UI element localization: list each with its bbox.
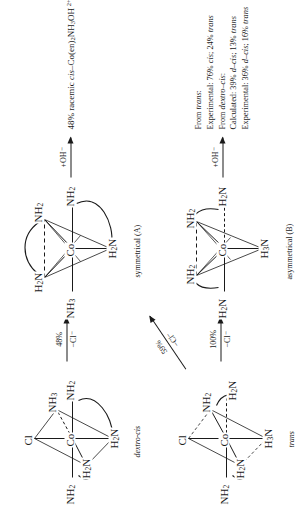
ligand-h2n-left: H2N: [216, 297, 228, 319]
metal-center-co: Co: [216, 242, 227, 257]
ligand-nh2-left: NH2: [64, 483, 76, 505]
ligand-h2n-bottom: H2N: [106, 237, 118, 259]
ligand-nh3-left: NH3: [64, 297, 76, 319]
ligand-h2n-top-left: H2N: [32, 271, 44, 293]
arrow-label-above: +OH⁻: [58, 137, 67, 177]
metal-center-co: Co: [64, 432, 75, 447]
molecule-asymmetrical-b: NH2 NH2 H2N H2N H3N Co asymmetrical (B): [166, 189, 278, 307]
ligand-h2n-inner: H2N: [80, 457, 92, 479]
result-line-2: Experimental: 76% cis; 24% trans: [204, 6, 216, 129]
ligand-nh2-right: NH2: [64, 185, 76, 207]
ligand-h3n-bottom: H3N: [262, 427, 274, 449]
product-symmetrical: 48% racemic cis–Co(en)2NH3OH 2+: [64, 0, 77, 129]
ligand-nh2-right: NH2: [64, 379, 76, 401]
arrow-label-above: +OH⁻: [210, 137, 219, 177]
arrow-dextro-to-asymmetrical: 59% −Cl⁻: [149, 316, 185, 369]
molecule-dextro-cis: Cl NH3 NH2 NH2 H2N H2N Co dextro-cis: [16, 379, 128, 497]
arrow-label-above: 100%: [208, 317, 217, 361]
metal-center-co: Co: [64, 242, 75, 257]
arrow-label-above: 48%: [54, 317, 63, 361]
ligand-cl: Cl: [176, 434, 187, 446]
result-line-4: Calculated: 39% d–cis; 13% trans: [227, 6, 239, 129]
ligand-cl: Cl: [22, 434, 33, 446]
ligand-h2n-right: H2N: [226, 379, 238, 401]
molecule-label: symmetrical (A): [132, 224, 141, 277]
ligand-nh2-top-right: NH2: [32, 201, 44, 223]
ligand-nh2-upper-right: NH2: [200, 391, 212, 413]
ligand-h2n-inner: H2N: [234, 457, 246, 479]
molecule-label: dextro-cis: [132, 425, 141, 457]
ligand-h2n-bottom: H2N: [108, 427, 120, 449]
results-asymmetrical: From trans: Experimental: 76% cis; 24% t…: [192, 6, 251, 129]
result-line-1: From trans:: [192, 6, 204, 129]
result-line-3: From dextro–cis:: [216, 6, 228, 129]
molecule-label: trans: [286, 431, 295, 447]
molecule-symmetrical-a: H2N NH2 NH3 NH2 H2N Co symmetrical (A): [14, 189, 126, 307]
ligand-h3n-bottom: H3N: [258, 237, 270, 259]
result-line-5: Experimental: 36% d–cis; 16% trans: [239, 6, 251, 129]
metal-center-co: Co: [218, 432, 229, 447]
ligand-nh2-top-right: NH2: [184, 207, 196, 229]
ligand-nh2-left: NH2: [218, 483, 230, 505]
ligand-h2n-right: H2N: [216, 185, 228, 207]
ligand-nh3: NH3: [46, 391, 58, 413]
molecule-trans: Cl NH2 NH2 H2N H2N H3N Co trans: [170, 379, 282, 497]
ligand-nh2-top-left: NH2: [184, 263, 196, 285]
arrow-label-below: −Cl⁻: [222, 317, 231, 361]
arrow-label-below: −Cl⁻: [68, 317, 77, 361]
molecule-label: asymmetrical (B): [284, 223, 293, 279]
